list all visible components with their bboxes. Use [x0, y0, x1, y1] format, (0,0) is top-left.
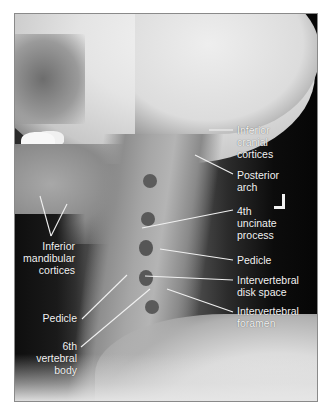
- label-pedicle-left: Pedicle: [15, 312, 77, 324]
- leader-intervertebral-disk-space: [145, 276, 233, 280]
- label-pedicle-right: Pedicle: [237, 254, 271, 266]
- leader-4th-uncinate-process: [142, 210, 233, 228]
- label-4th-uncinate-process: 4th uncinate process: [237, 205, 277, 241]
- leader-inferior-mandibular-cortices-b: [51, 204, 67, 236]
- label-inferior-cranial-cortices: Inferior cranial cortices: [237, 124, 273, 160]
- label-intervertebral-foramen: Intervertebral foramen: [237, 305, 299, 329]
- leader-6th-vertebral-body: [81, 289, 150, 347]
- leader-pedicle-left: [82, 275, 127, 319]
- leader-posterior-arch: [195, 155, 233, 174]
- leader-pedicle-right: [160, 249, 233, 260]
- label-intervertebral-disk-space: Intervertebral disk space: [237, 274, 299, 298]
- leader-inferior-mandibular-cortices-a: [40, 196, 51, 236]
- label-posterior-arch: Posterior arch: [237, 169, 279, 193]
- xray-figure: Inferior cranial cortices Posterior arch…: [14, 13, 318, 402]
- leader-intervertebral-foramen: [167, 289, 233, 312]
- label-inferior-mandibular-cortices: Inferior mandibular cortices: [15, 240, 75, 276]
- label-6th-vertebral-body: 6th vertebral body: [15, 340, 77, 376]
